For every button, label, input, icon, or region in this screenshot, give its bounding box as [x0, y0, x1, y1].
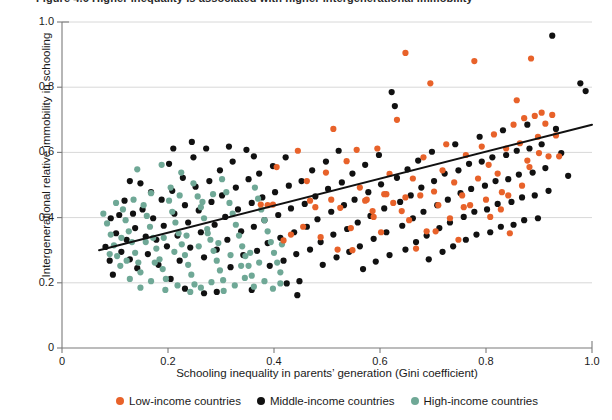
chart-legend: Low-income countriesMiddle-income countr…: [62, 392, 592, 410]
x-axis-label: Schooling inequality in parents’ generat…: [62, 367, 592, 379]
gridlines: [62, 22, 592, 283]
scatter-plot: [0, 0, 612, 420]
y-tick-label: 0.4: [20, 211, 54, 223]
y-tick-label: 0.2: [20, 276, 54, 288]
legend-item-0[interactable]: Low-income countries: [116, 395, 241, 407]
x-tick-label: 0.2: [148, 355, 188, 367]
figure-container: Figure 4.6 Higher inequality is associat…: [0, 0, 612, 420]
x-tick-label: 0.6: [360, 355, 400, 367]
legend-item-1[interactable]: Middle-income countries: [257, 395, 395, 407]
legend-label: Middle-income countries: [270, 395, 395, 407]
x-tick-label: 1.0: [572, 355, 612, 367]
y-tick-label: 0.8: [20, 80, 54, 92]
legend-item-2[interactable]: High-income countries: [411, 395, 538, 407]
legend-swatch-icon: [411, 397, 419, 405]
data-points-middle-income: [102, 33, 588, 299]
y-tick-label: 0: [20, 341, 54, 353]
legend-swatch-icon: [257, 397, 265, 405]
x-tick-label: 0.4: [254, 355, 294, 367]
y-tick-label: 1.0: [20, 15, 54, 27]
tick-marks: [57, 22, 592, 353]
x-tick-label: 0.8: [466, 355, 506, 367]
legend-swatch-icon: [116, 397, 124, 405]
x-tick-label: 0: [42, 355, 82, 367]
legend-label: Low-income countries: [129, 395, 241, 407]
legend-label: High-income countries: [424, 395, 538, 407]
y-tick-label: 0.6: [20, 145, 54, 157]
